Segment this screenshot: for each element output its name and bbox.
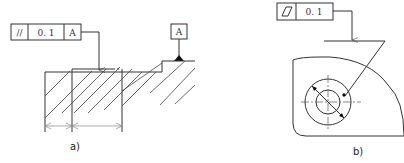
- leader-arrow: [81, 32, 99, 70]
- tolerance-value: 0. 1: [305, 7, 322, 17]
- datum-feature-a: A: [171, 24, 187, 61]
- part-outline: [45, 61, 195, 117]
- tolerance-frame-b: 0. 1: [277, 3, 333, 20]
- leader-dot: [342, 93, 345, 96]
- tolerance-frame-a: // 0. 1 A: [11, 24, 81, 40]
- figure-b: 0. 1 b): [277, 3, 404, 157]
- part-outline: [293, 57, 404, 136]
- parallelism-icon: //: [16, 28, 23, 38]
- section-hatching: [45, 61, 195, 118]
- drawing-canvas: // 0. 1 A A: [0, 0, 404, 163]
- caption-b: b): [353, 146, 363, 157]
- caption-a: a): [70, 141, 80, 152]
- leader-line: [345, 41, 385, 96]
- figure-a: // 0. 1 A A: [11, 24, 195, 152]
- datum-reference: A: [68, 28, 76, 38]
- flatness-icon: [282, 7, 292, 16]
- datum-label: A: [175, 27, 183, 37]
- dimension-lines: [45, 123, 122, 129]
- leader-arrow: [333, 11, 352, 40]
- tolerance-value: 0. 1: [37, 28, 54, 38]
- datum-triangle-icon: [174, 55, 184, 61]
